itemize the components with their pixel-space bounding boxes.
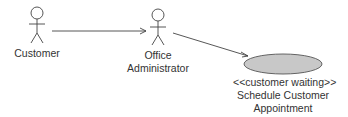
office-admin-actor-icon bbox=[150, 9, 166, 45]
use-case-stereotype: <<customer waiting>> bbox=[233, 76, 333, 89]
office-admin-label-line1: Office bbox=[118, 49, 198, 62]
association-customer-admin bbox=[52, 28, 146, 34]
customer-label-text: Customer bbox=[14, 47, 60, 59]
customer-actor-icon bbox=[29, 7, 45, 43]
use-case-ellipse[interactable] bbox=[244, 54, 322, 74]
office-admin-label: Office Administrator bbox=[118, 49, 198, 75]
use-case-label-line1: Schedule Customer bbox=[233, 89, 333, 102]
use-case-label: <<customer waiting>> Schedule Customer A… bbox=[233, 76, 333, 115]
customer-label: Customer bbox=[7, 47, 67, 60]
office-admin-label-line2: Administrator bbox=[118, 62, 198, 75]
use-case-label-line2: Appointment bbox=[233, 102, 333, 115]
